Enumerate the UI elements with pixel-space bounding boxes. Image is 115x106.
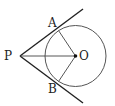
segment-oa bbox=[59, 31, 76, 57]
segment-ob bbox=[59, 56, 76, 82]
label-o: O bbox=[79, 49, 89, 63]
label-a: A bbox=[47, 16, 57, 30]
label-p: P bbox=[4, 49, 12, 63]
center-dot-o bbox=[74, 54, 78, 58]
tangent-diagram: P A B O bbox=[0, 0, 115, 106]
label-b: B bbox=[48, 82, 57, 96]
